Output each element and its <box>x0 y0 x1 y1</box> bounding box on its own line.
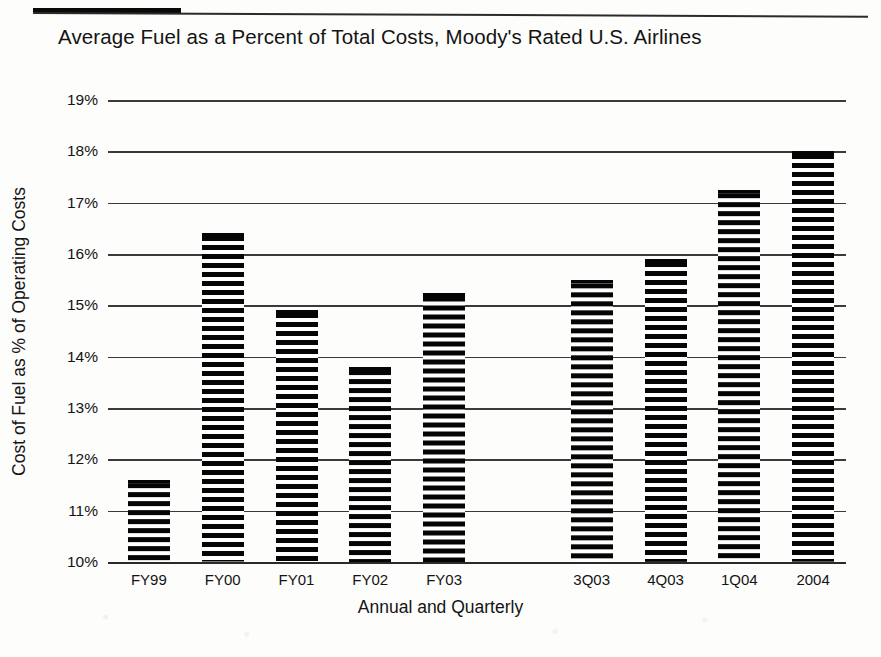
x-axis-tick-label: 2004 <box>778 571 848 588</box>
bar-2004 <box>792 151 834 562</box>
header-rule-thin <box>33 12 868 18</box>
gridline <box>108 151 846 153</box>
y-axis-title-label: Cost of Fuel as % of Operating Costs <box>9 187 30 476</box>
x-axis-tick-label: FY99 <box>114 571 184 588</box>
bar-FY00 <box>202 233 244 562</box>
bar-3Q03 <box>571 280 613 562</box>
y-axis-tick-label: 10% <box>67 553 98 571</box>
y-axis-tick-label: 14% <box>67 348 98 366</box>
y-axis-tick-label: 17% <box>67 194 98 212</box>
y-axis-tick-label: 18% <box>67 142 98 160</box>
bar-FY02 <box>349 367 391 562</box>
bar-1Q04 <box>718 190 760 562</box>
x-axis-title: Annual and Quarterly <box>0 597 881 618</box>
y-axis-tick-label: 19% <box>67 91 98 109</box>
bar-FY99 <box>128 480 170 562</box>
y-axis-tick-label: 13% <box>67 399 98 417</box>
chart-title: Average Fuel as a Percent of Total Costs… <box>58 24 798 49</box>
y-axis-tick-label: 16% <box>67 245 98 263</box>
x-axis-tick-label: FY00 <box>188 571 258 588</box>
chart-page: Average Fuel as a Percent of Total Costs… <box>0 0 881 657</box>
x-axis-baseline <box>108 562 846 564</box>
x-axis-tick-label: 3Q03 <box>557 571 627 588</box>
x-axis-tick-label: 1Q04 <box>704 571 774 588</box>
x-axis-tick-label: FY01 <box>262 571 332 588</box>
y-axis-tick-label: 12% <box>67 450 98 468</box>
y-axis-title: Cost of Fuel as % of Operating Costs <box>6 100 32 562</box>
x-axis-tick-label: 4Q03 <box>631 571 701 588</box>
y-axis-tick-label: 15% <box>67 296 98 314</box>
gridline <box>108 100 846 102</box>
y-axis-tick-label: 11% <box>68 502 98 520</box>
plot-area: 19%18%17%16%15%14%13%12%11%10%FY99FY00FY… <box>108 100 846 562</box>
bar-FY01 <box>276 310 318 562</box>
bar-FY03 <box>423 293 465 563</box>
x-axis-tick-label: FY02 <box>335 571 405 588</box>
x-axis-tick-label: FY03 <box>409 571 479 588</box>
bar-4Q03 <box>645 259 687 562</box>
